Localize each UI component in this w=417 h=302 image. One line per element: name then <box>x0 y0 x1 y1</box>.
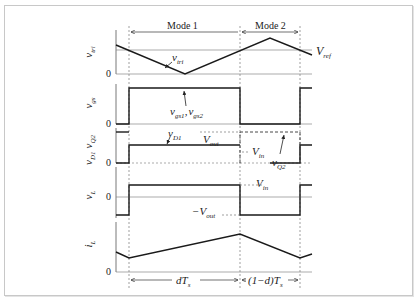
axis-label-vl: vL <box>82 191 97 200</box>
vgs-zero: 0 <box>106 118 111 129</box>
axis-label-vd1q2: vD1vQ2 <box>82 135 97 165</box>
vtri-curve-label: vtri <box>172 51 184 66</box>
mode2-label: Mode 2 <box>255 20 286 31</box>
off-interval-label: (1−d)Ts <box>248 274 283 289</box>
vq2-curve-label: vQ2 <box>272 156 286 171</box>
vref-label: Vref <box>316 44 332 60</box>
svg-text:vtri: vtri <box>82 46 97 58</box>
vtri-trace <box>116 38 312 74</box>
axis-label-il: iL <box>82 240 97 247</box>
waveform-diagram: Mode 1 Mode 2 0 0 0 0 0 vtri vgs vD1vQ2 … <box>0 0 417 302</box>
vin-level-q2-label: Vin <box>252 145 265 160</box>
vl-trace <box>116 185 312 215</box>
vd1-curve-label: vD1 <box>168 127 181 142</box>
svg-text:iL: iL <box>82 240 97 247</box>
axis-label-vtri: vtri <box>82 46 97 58</box>
vd1-trace <box>116 145 240 163</box>
baselines <box>116 50 312 272</box>
vq2-dashed <box>240 132 300 163</box>
il-zero: 0 <box>106 266 111 277</box>
axis-label-vgs: vgs <box>82 97 97 108</box>
traces <box>116 38 312 258</box>
vd1q2-zero: 0 <box>106 157 111 168</box>
svg-text:vL: vL <box>82 191 97 200</box>
vl-zero: 0 <box>106 191 111 202</box>
on-interval-label: dTs <box>176 274 191 289</box>
vgs-curve-label: vgs1,vgs2 <box>170 105 203 120</box>
svg-text:vD1vQ2: vD1vQ2 <box>82 135 97 165</box>
vtri-zero: 0 <box>106 68 111 79</box>
il-trace <box>116 234 312 258</box>
neg-vout-level-label: −Vout <box>192 205 216 220</box>
vgs-trace <box>116 88 312 124</box>
vout-level-label: Vout <box>203 133 220 148</box>
mode1-label: Mode 1 <box>167 20 198 31</box>
vin-level-l-label: Vin <box>256 177 269 192</box>
svg-text:vgs: vgs <box>82 97 97 108</box>
